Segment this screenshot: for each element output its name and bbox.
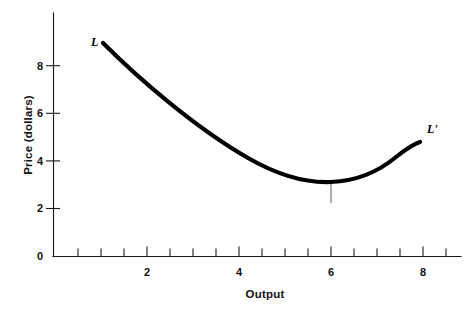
supply-curve-LLprime <box>103 43 420 182</box>
x-tick-label-4: 4 <box>236 267 242 278</box>
y-tick-label-2: 2 <box>37 203 43 214</box>
x-tick-label-8: 8 <box>420 267 426 278</box>
chart-plot-area <box>0 0 473 309</box>
y-tick-label-8: 8 <box>37 61 43 72</box>
y-tick-label-6: 6 <box>37 108 43 119</box>
x-tick-label-2: 2 <box>144 267 150 278</box>
x-axis-ticks <box>78 247 446 257</box>
x-tick-label-6: 6 <box>328 267 334 278</box>
y-axis-title: Price (dollars) <box>22 95 34 175</box>
curve-label-end-Lprime: L' <box>427 123 438 135</box>
chart-figure: 0 2 4 6 8 2 4 6 8 Output Price (dollars)… <box>0 0 473 309</box>
y-tick-label-0: 0 <box>37 251 43 262</box>
curve-label-start-L: L <box>91 36 98 48</box>
x-axis-title: Output <box>246 288 285 300</box>
y-tick-label-4: 4 <box>37 156 43 167</box>
